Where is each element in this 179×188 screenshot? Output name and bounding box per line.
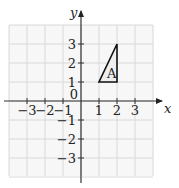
origin-label: 0 <box>70 87 78 102</box>
coordinate-plane-svg: A −3−2−1123321−1−2−3 x y 0 <box>0 0 179 188</box>
x-tick-label: 2 <box>113 103 121 118</box>
x-axis-label: x <box>164 101 172 116</box>
y-tick-label: −1 <box>57 113 76 128</box>
y-tick-label: 3 <box>68 37 76 52</box>
y-tick-label: −2 <box>57 132 76 147</box>
x-tick-label: 3 <box>131 103 139 118</box>
x-tick-label: 1 <box>95 103 103 118</box>
x-tick-label: −3 <box>17 103 36 118</box>
y-tick-label: 2 <box>68 56 76 71</box>
y-axis-label: y <box>69 5 78 20</box>
coordinate-plane: A −3−2−1123321−1−2−3 x y 0 <box>0 0 179 188</box>
x-tick-label: −2 <box>35 103 54 118</box>
y-tick-label: −3 <box>57 151 76 166</box>
triangle-label: A <box>106 66 117 81</box>
